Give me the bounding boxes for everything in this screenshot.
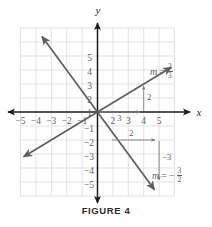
equals-sign-2: =	[161, 170, 167, 181]
xtick--4: −4	[31, 116, 41, 126]
xtick--2: −2	[62, 116, 72, 126]
ytick-3: 3	[87, 81, 92, 91]
coordinate-plane: −5 −4 −3 −2 −1 2 3 4 5 5 4 3 2 1 −1 −2 −…	[0, 0, 212, 227]
run-label-line1: 3	[117, 113, 122, 123]
figure-caption: FIGURE 4	[0, 205, 212, 216]
ytick-2: 2	[87, 95, 92, 105]
slope-label-line1: m = 2 3	[150, 63, 173, 80]
fraction-denominator-2: 2	[177, 175, 183, 184]
ytick-1: 1	[87, 108, 92, 118]
run-label-line2: 2	[129, 128, 134, 138]
slope-variable-m1: m	[150, 66, 157, 77]
rise-label-line2: −3	[162, 152, 172, 162]
fraction-numerator-2: 3	[177, 167, 183, 175]
fraction-two-thirds: 2 3	[167, 63, 173, 80]
ytick-5: 5	[87, 53, 92, 63]
ytick--1: −1	[84, 124, 94, 134]
rise-label-line1: 2	[147, 92, 152, 102]
xtick-2: 2	[111, 116, 116, 126]
minus-sign-2: −	[169, 170, 175, 181]
slope-variable-m2: m	[152, 170, 159, 181]
axis-y-label: y	[95, 4, 101, 16]
axis-x-label: x	[196, 106, 202, 118]
ytick--2: −2	[84, 138, 94, 148]
xtick--3: −3	[46, 116, 56, 126]
xtick--5: −5	[15, 116, 25, 126]
fraction-three-halves: 3 2	[177, 167, 183, 184]
xtick-5: 5	[157, 116, 162, 126]
fraction-denominator-1: 3	[167, 71, 173, 80]
xtick-4: 4	[141, 116, 146, 126]
slope-label-line2: m = − 3 2	[152, 167, 182, 184]
rise-run-triangle-line1	[99, 86, 144, 112]
ytick--3: −3	[84, 152, 94, 162]
fraction-numerator-1: 2	[167, 63, 173, 71]
ytick--5: −5	[84, 180, 94, 190]
ytick--4: −4	[84, 166, 94, 176]
figure-4: −5 −4 −3 −2 −1 2 3 4 5 5 4 3 2 1 −1 −2 −…	[0, 0, 212, 227]
xtick-3: 3	[126, 116, 131, 126]
ytick-4: 4	[87, 67, 92, 77]
equals-sign-1: =	[159, 66, 165, 77]
